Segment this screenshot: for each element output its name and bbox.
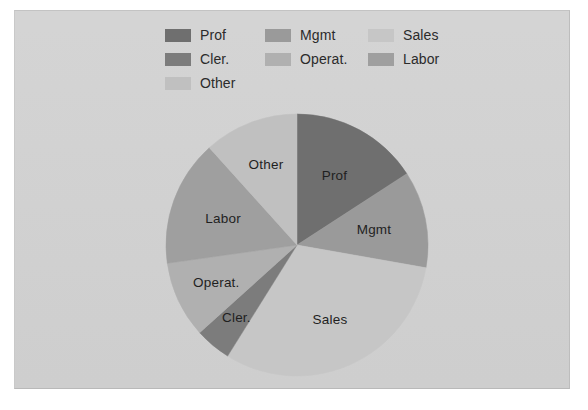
legend-item-label: Other: [200, 76, 236, 90]
legend-item-label: Prof: [200, 28, 226, 42]
legend-item-prof[interactable]: Prof: [165, 28, 226, 42]
pie-slice-label: Other: [249, 157, 284, 172]
pie-chart: ProfMgmtSalesCler.Operat.LaborOther: [164, 112, 430, 378]
legend-swatch-icon: [265, 29, 291, 42]
legend-item-mgmt[interactable]: Mgmt: [265, 28, 335, 42]
pie-slice-label: Labor: [205, 211, 241, 226]
legend-swatch-icon: [368, 53, 394, 66]
chart-legend: ProfCler.OtherMgmtOperat.SalesLabor: [165, 28, 445, 96]
legend-swatch-icon: [368, 29, 394, 42]
legend-item-label: Cler.: [200, 52, 229, 66]
pie-chart-svg: ProfMgmtSalesCler.Operat.LaborOther: [164, 112, 430, 378]
legend-item-labor[interactable]: Labor: [368, 52, 439, 66]
pie-slice-label: Sales: [313, 312, 348, 327]
legend-swatch-icon: [165, 77, 191, 90]
pie-slice-label: Prof: [322, 168, 348, 183]
legend-item-sales[interactable]: Sales: [368, 28, 439, 42]
legend-item-cler[interactable]: Cler.: [165, 52, 229, 66]
legend-item-other[interactable]: Other: [165, 76, 236, 90]
legend-item-operat[interactable]: Operat.: [265, 52, 347, 66]
pie-slice-label: Operat.: [193, 275, 239, 290]
legend-swatch-icon: [165, 53, 191, 66]
legend-swatch-icon: [265, 53, 291, 66]
legend-item-label: Labor: [403, 52, 439, 66]
legend-item-label: Operat.: [300, 52, 347, 66]
legend-swatch-icon: [165, 29, 191, 42]
pie-slice-label: Mgmt: [357, 222, 392, 237]
legend-item-label: Mgmt: [300, 28, 335, 42]
figure-canvas: ProfCler.OtherMgmtOperat.SalesLabor Prof…: [0, 0, 588, 410]
pie-slice-group: [166, 114, 428, 376]
legend-item-label: Sales: [403, 28, 439, 42]
pie-slice-label: Cler.: [222, 310, 251, 325]
